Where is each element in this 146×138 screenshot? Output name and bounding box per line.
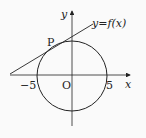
tangent-label: y=f(x) (91, 17, 126, 30)
point-p-label: P (47, 36, 55, 49)
y-axis-label: y (60, 8, 68, 21)
origin-label: O (62, 79, 71, 92)
tick-neg5: −5 (20, 79, 36, 92)
tick-pos5: 5 (106, 79, 113, 92)
diagram-canvas: y x O −5 5 P y=f(x) (0, 0, 146, 138)
x-axis-label: x (125, 78, 132, 91)
tangent-line (10, 24, 93, 74)
